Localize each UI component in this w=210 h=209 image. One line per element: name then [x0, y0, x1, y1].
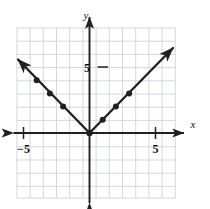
point-marker — [100, 117, 106, 123]
point-marker — [47, 90, 53, 96]
y-tick-label-pos5: 5 — [84, 61, 90, 75]
chart-background — [0, 0, 210, 209]
point-marker — [113, 104, 119, 110]
point-marker — [86, 130, 92, 136]
point-marker — [126, 90, 132, 96]
graph-figure: y x −5 5 5 — [0, 0, 210, 209]
coordinate-plane-svg: y x −5 5 5 — [0, 0, 210, 209]
x-tick-label-neg5: −5 — [17, 142, 30, 156]
x-tick-label-pos5: 5 — [153, 142, 159, 156]
point-marker — [60, 104, 66, 110]
y-axis-label: y — [83, 9, 89, 21]
x-axis-label: x — [190, 118, 196, 130]
point-marker — [34, 77, 40, 83]
